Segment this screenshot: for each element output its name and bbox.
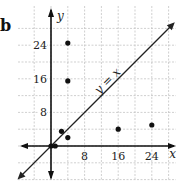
data-point (59, 129, 64, 134)
y-axis-arrow-down-icon (48, 171, 54, 180)
data-point (65, 135, 70, 140)
y-axis-arrow-up-icon (48, 8, 54, 17)
reference-line-label: y = x (91, 65, 124, 98)
y-tick-label: 24 (33, 39, 47, 52)
data-point (53, 143, 58, 148)
data-point (116, 127, 121, 132)
data-point (65, 78, 70, 83)
y-tick-label: 16 (33, 73, 47, 86)
scatter-chart: y = x 8162481624xy (0, 0, 179, 187)
y-axis-label: y (56, 9, 64, 23)
x-axis-label: x (169, 147, 176, 161)
x-tick-label: 16 (111, 150, 125, 163)
data-point (65, 41, 70, 46)
x-axis-arrow-left-icon (20, 143, 28, 149)
data-point (149, 122, 154, 127)
y-tick-label: 8 (40, 106, 47, 119)
x-tick-label: 24 (145, 150, 159, 163)
x-tick-label: 8 (81, 150, 88, 163)
